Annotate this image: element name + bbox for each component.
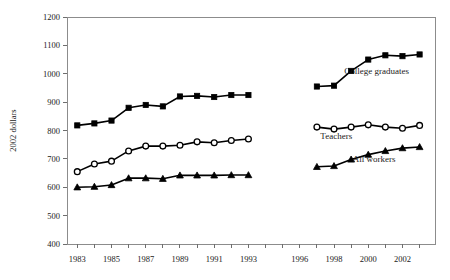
x-axis-ticks: 1983198519871989199119931996199820002002 [69,244,420,264]
series-polyline [77,95,248,125]
data-point-marker-square [92,121,97,126]
series-college-graduates [75,52,423,128]
x-tick-label: 1996 [291,254,308,264]
series-label-college-graduates: College graduates [344,66,409,76]
y-axis-ticks: 400500600700800900100011001200 [43,12,67,249]
data-point-marker-circle [348,124,354,130]
data-point-marker-square [160,104,165,109]
y-tick-label: 700 [47,154,60,164]
y-tick-label: 400 [47,239,60,249]
data-point-marker-circle [365,122,371,128]
y-tick-label: 900 [47,97,60,107]
x-tick-label: 1998 [326,254,343,264]
x-tick-label: 1987 [137,254,154,264]
data-point-marker-circle [194,139,200,145]
data-point-marker-circle [382,124,388,130]
data-point-marker-square [194,93,199,98]
data-point-marker-circle [228,138,234,144]
data-point-marker-circle [211,140,217,146]
data-point-marker-circle [143,143,149,149]
data-point-marker-circle [314,124,320,130]
y-tick-label: 1200 [43,12,60,22]
data-point-marker-square [314,84,319,89]
chart-root: 400500600700800900100011001200 198319851… [0,0,450,280]
data-point-marker-circle [177,142,183,148]
data-point-marker-circle [109,158,115,164]
plot-frame-group [67,17,435,244]
x-tick-label: 1985 [103,254,120,264]
x-tick-label: 1991 [206,254,223,264]
data-point-marker-square [246,92,251,97]
line-chart: 400500600700800900100011001200 198319851… [0,0,450,280]
plot-area-border [67,17,435,244]
x-tick-label: 2002 [394,254,411,264]
y-tick-label: 1000 [43,69,60,79]
y-tick-label: 800 [47,126,60,136]
data-point-marker-circle [74,169,80,175]
y-tick-label: 500 [47,211,60,221]
x-tick-label: 1993 [240,254,257,264]
series-label-teachers: Teachers [320,131,352,141]
data-point-marker-square [212,94,217,99]
y-tick-label: 600 [47,182,60,192]
series-teachers [74,122,422,175]
data-point-marker-circle [417,122,423,128]
data-point-marker-square [177,94,182,99]
data-point-marker-square [331,83,336,88]
data-point-marker-circle [160,143,166,149]
x-tick-label: 2000 [360,254,377,264]
data-point-marker-square [400,54,405,59]
data-point-marker-circle [126,148,132,154]
data-point-marker-square [229,92,234,97]
data-point-marker-square [109,118,114,123]
data-point-marker-square [143,102,148,107]
x-tick-label: 1989 [171,254,188,264]
y-tick-label: 1100 [43,40,60,50]
x-tick-label: 1983 [69,254,86,264]
y-axis-title: 2002 dollars [8,109,18,151]
data-point-marker-square [75,123,80,128]
data-point-marker-circle [91,161,97,167]
data-point-marker-square [366,57,371,62]
data-point-marker-circle [246,136,252,142]
data-point-marker-square [383,53,388,58]
data-point-marker-square [417,52,422,57]
series-label-all-workers: All workers [353,154,396,164]
data-point-marker-square [126,105,131,110]
data-point-marker-circle [400,125,406,131]
